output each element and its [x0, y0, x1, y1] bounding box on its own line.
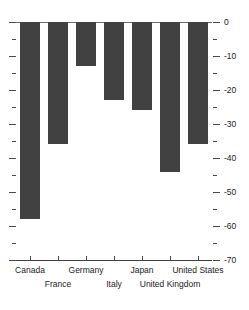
- x-tick: [114, 256, 115, 260]
- y-tick-minor: [213, 243, 217, 244]
- y-tick-major-left: [9, 260, 16, 261]
- y-tick-minor-left: [12, 73, 16, 74]
- y-tick-minor-left: [12, 175, 16, 176]
- y-tick-major: [213, 124, 220, 125]
- y-tick-minor-left: [12, 209, 16, 210]
- y-tick-minor: [213, 73, 217, 74]
- y-tick-major-left: [9, 192, 16, 193]
- x-label-japan: Japan: [130, 266, 153, 275]
- y-tick-major-left: [9, 226, 16, 227]
- bar-japan[interactable]: [132, 22, 153, 110]
- y-tick-major: [213, 192, 220, 193]
- y-tick-major: [213, 260, 220, 261]
- bar-italy[interactable]: [104, 22, 125, 100]
- x-label-canada: Canada: [15, 266, 45, 275]
- x-tick: [30, 256, 31, 260]
- y-tick-minor-left: [12, 107, 16, 108]
- x-label-united-kingdom: United Kingdom: [140, 280, 200, 289]
- x-label-italy: Italy: [106, 280, 122, 289]
- y-tick-major: [213, 56, 220, 57]
- y-tick-minor-left: [12, 39, 16, 40]
- bar-germany[interactable]: [76, 22, 97, 66]
- y-tick-major-left: [9, 56, 16, 57]
- x-label-france: France: [45, 280, 71, 289]
- y-tick-major-left: [9, 90, 16, 91]
- y-tick-label: 0: [224, 18, 229, 27]
- bar-united-kingdom[interactable]: [160, 22, 181, 172]
- x-tick: [86, 256, 87, 260]
- plot-area: [16, 22, 212, 260]
- y-tick-label: -70: [224, 256, 236, 265]
- bar-chart: 0-10-20-30-40-50-60-70 CanadaFranceGerma…: [0, 0, 249, 310]
- x-tick: [198, 256, 199, 260]
- y-tick-label: -20: [224, 86, 236, 95]
- y-tick-minor: [213, 39, 217, 40]
- y-tick-minor-left: [12, 243, 16, 244]
- axis-baseline: [16, 260, 212, 261]
- x-label-united-states: United States: [172, 266, 223, 275]
- y-tick-major-left: [9, 158, 16, 159]
- x-label-germany: Germany: [69, 266, 104, 275]
- y-tick-minor: [213, 141, 217, 142]
- bars-container: [16, 22, 212, 260]
- y-tick-minor-left: [12, 141, 16, 142]
- bar-canada[interactable]: [20, 22, 41, 219]
- y-tick-minor: [213, 209, 217, 210]
- y-tick-label: -50: [224, 188, 236, 197]
- y-axis-right: 0-10-20-30-40-50-60-70: [213, 22, 243, 261]
- bar-united-states[interactable]: [188, 22, 209, 144]
- y-tick-label: -60: [224, 222, 236, 231]
- y-tick-major: [213, 22, 220, 23]
- y-tick-major: [213, 90, 220, 91]
- y-tick-major: [213, 158, 220, 159]
- bar-france[interactable]: [48, 22, 69, 144]
- y-tick-minor: [213, 107, 217, 108]
- y-tick-major: [213, 226, 220, 227]
- y-axis-left-ticks: [8, 22, 16, 261]
- x-tick: [58, 256, 59, 260]
- y-tick-minor: [213, 175, 217, 176]
- y-tick-major-left: [9, 124, 16, 125]
- y-tick-label: -10: [224, 52, 236, 61]
- y-tick-label: -30: [224, 120, 236, 129]
- x-tick: [142, 256, 143, 260]
- x-tick: [170, 256, 171, 260]
- y-tick-label: -40: [224, 154, 236, 163]
- y-tick-major-left: [9, 22, 16, 23]
